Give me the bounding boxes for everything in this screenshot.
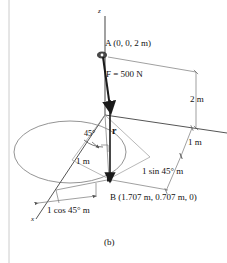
position-vector-label: r xyxy=(112,126,116,136)
angle-label: 45° xyxy=(84,130,95,138)
eyelet-hole-icon xyxy=(101,54,104,57)
figure-container: z x A (0, 0, 2 m) F = 500 N 2 m 1 m 45° … xyxy=(0,0,227,263)
force-label: F = 500 N xyxy=(106,70,143,79)
force-vector xyxy=(103,57,110,107)
point-a-label: A (0, 0, 2 m) xyxy=(105,39,151,48)
leader-cos-top xyxy=(56,180,107,190)
leader-b-right xyxy=(112,180,168,190)
axis-label-z: z xyxy=(98,8,101,15)
projection-line-1 xyxy=(105,115,150,157)
dimension-label-cos: 1 cos 45° m xyxy=(47,206,90,215)
y-axis xyxy=(105,115,227,133)
dimension-label-sin: 1 sin 45° m xyxy=(142,167,183,176)
figure-caption: (b) xyxy=(104,238,115,247)
radius-line xyxy=(105,115,109,179)
point-b-label: B (1.707 m, 0.707 m, 0) xyxy=(110,193,197,202)
axis-label-x: x xyxy=(31,216,34,223)
dim-cos-line xyxy=(38,196,96,203)
dimension-label-height: 2 m xyxy=(190,95,204,104)
dimension-label-y-offset: 1 m xyxy=(188,138,202,147)
point-b-marker xyxy=(107,177,112,182)
dimension-label-radius: 1 m xyxy=(76,157,90,166)
